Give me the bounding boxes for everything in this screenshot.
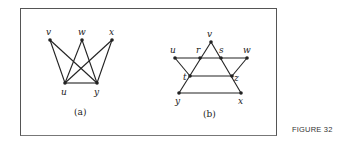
node-label-v: v: [46, 27, 51, 37]
caption-b: (b): [203, 109, 216, 119]
node-label-u: u: [170, 45, 176, 55]
node-label-u: u: [61, 87, 67, 97]
node-label-x: x: [238, 96, 243, 106]
node-label-s: s: [219, 45, 224, 55]
node-label-z: z: [233, 73, 239, 83]
node-label-r: r: [196, 45, 201, 55]
node-label-t: t: [183, 72, 187, 82]
node-label-v: v: [207, 29, 212, 39]
caption-a: (a): [74, 107, 86, 117]
node-label-y: y: [174, 96, 181, 106]
node-label-x: x: [109, 27, 114, 37]
graph-a: v w x u y (a): [46, 27, 114, 117]
figure-label: FIGURE 32: [292, 125, 333, 134]
node-label-w: w: [243, 45, 251, 55]
graph-b: v u r s w t z y x (b): [170, 29, 251, 119]
node-label-y: y: [93, 87, 100, 97]
node-label-w: w: [78, 27, 86, 37]
